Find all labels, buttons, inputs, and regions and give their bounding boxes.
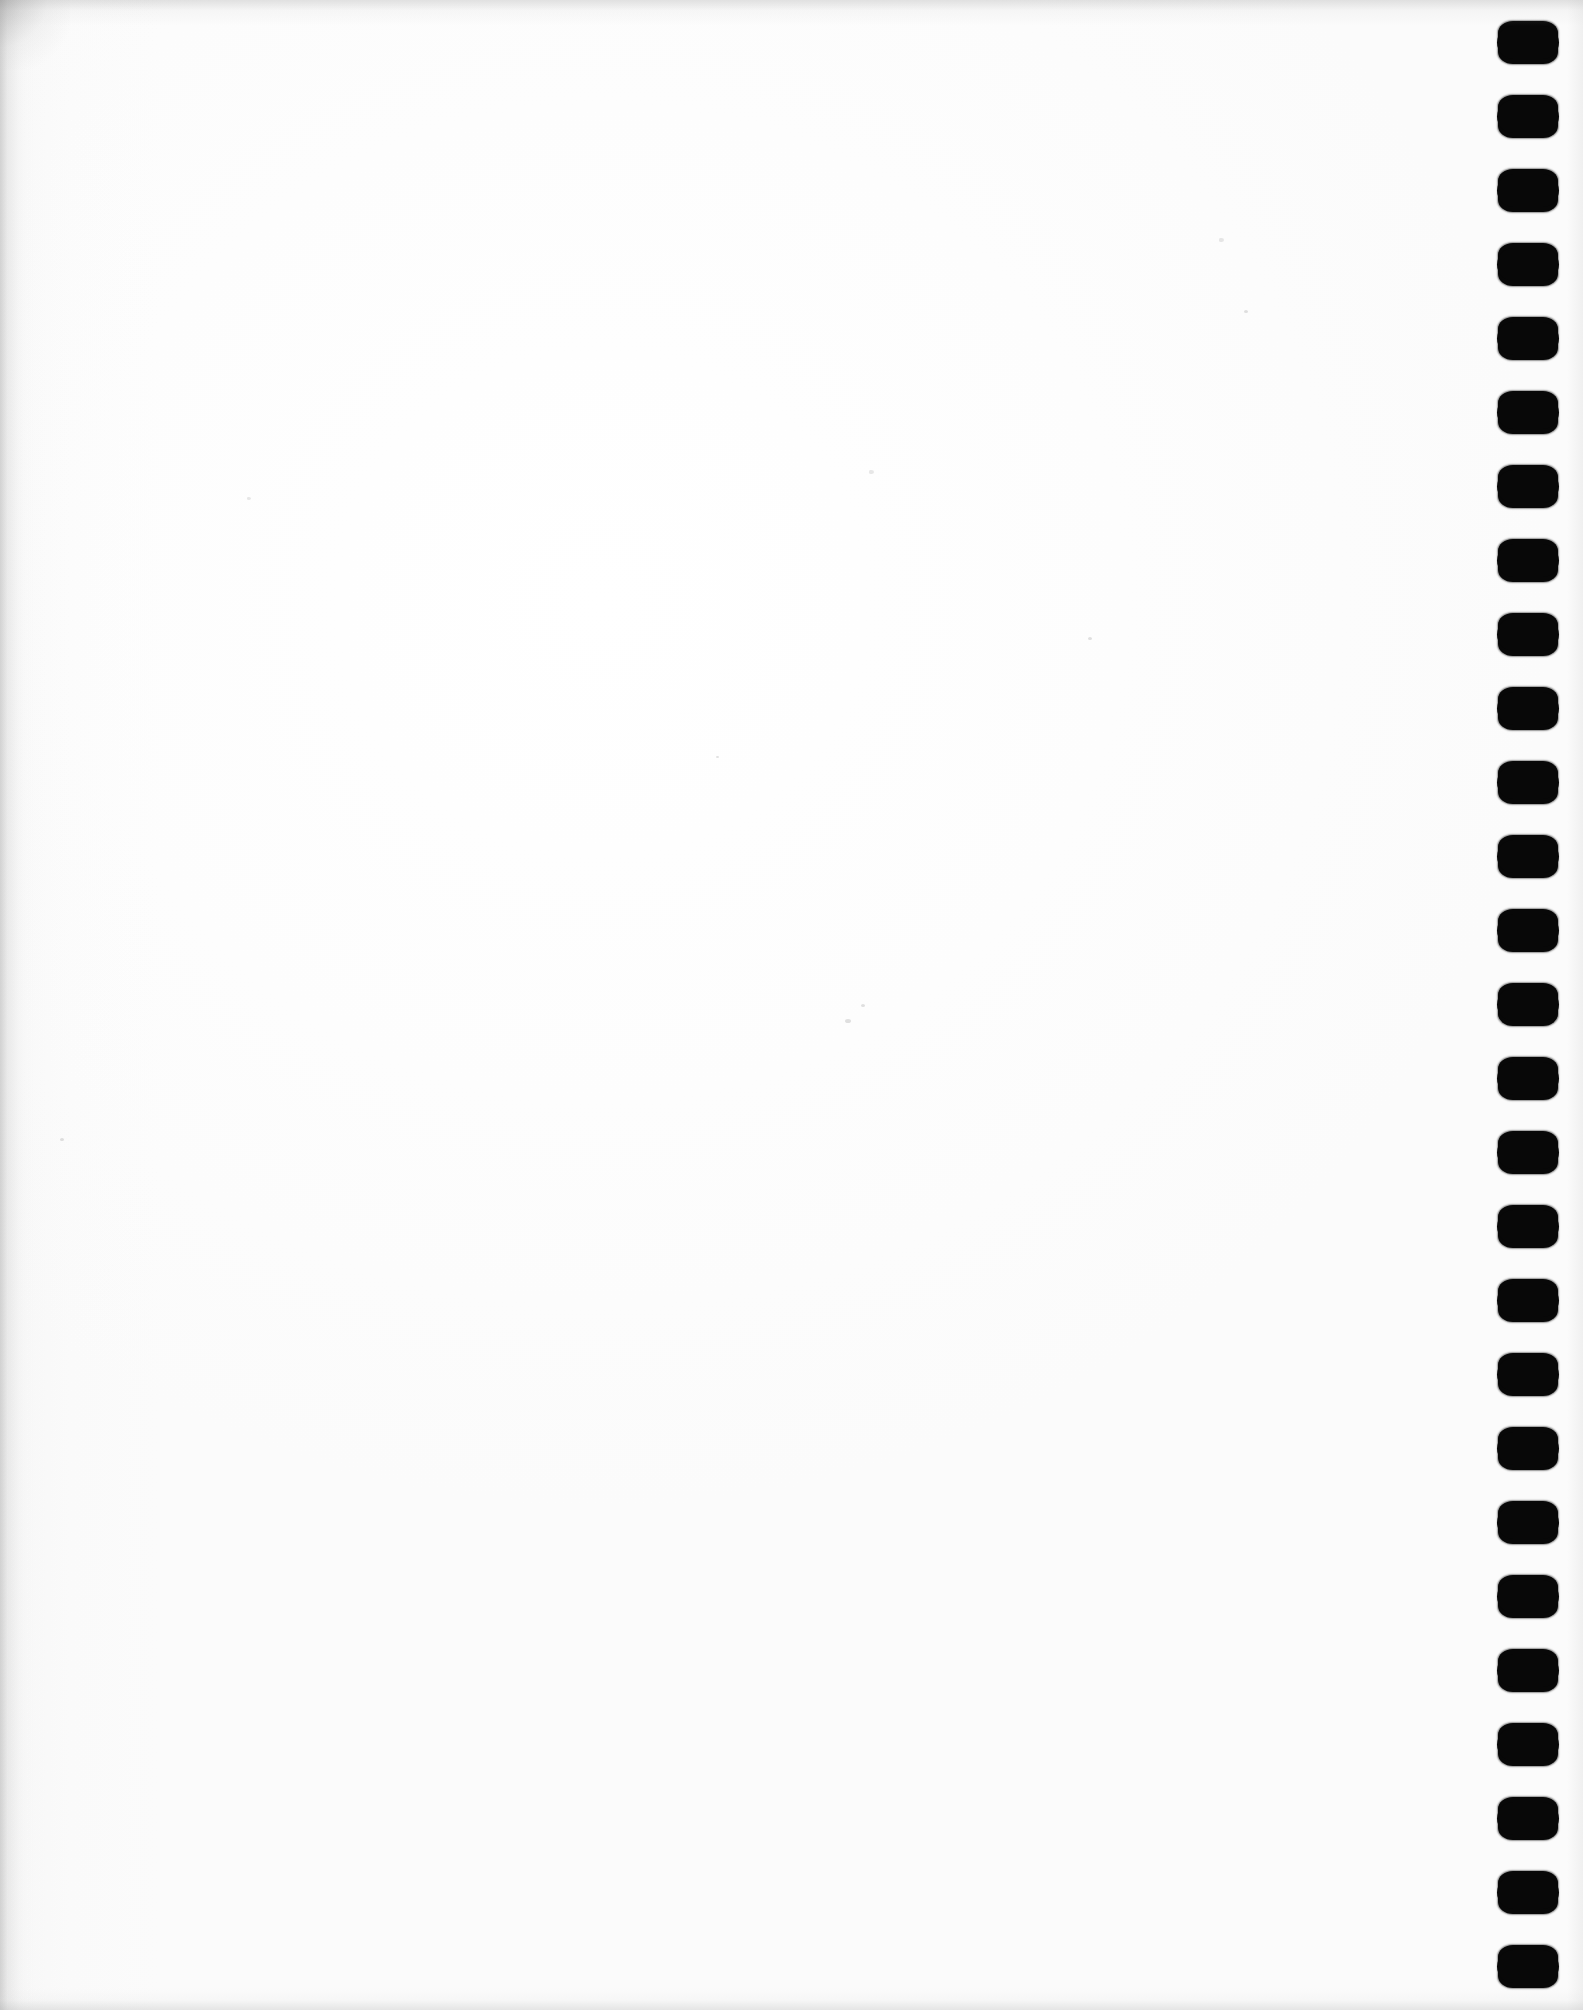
page-content-area	[40, 40, 1463, 1970]
punch-hole	[1498, 169, 1558, 212]
punch-hole	[1498, 1871, 1558, 1914]
punch-hole	[1498, 1945, 1558, 1988]
punch-hole	[1498, 539, 1558, 582]
punch-hole	[1498, 317, 1558, 360]
punch-hole	[1498, 983, 1558, 1026]
punch-hole	[1498, 1723, 1558, 1766]
scanned-page	[0, 0, 1583, 2010]
punch-hole	[1498, 1649, 1558, 1692]
punch-hole	[1498, 95, 1558, 138]
punch-hole-column	[1496, 0, 1566, 2010]
punch-hole	[1498, 1353, 1558, 1396]
punch-hole	[1498, 1057, 1558, 1100]
punch-hole	[1498, 1427, 1558, 1470]
punch-hole	[1498, 835, 1558, 878]
punch-hole	[1498, 391, 1558, 434]
punch-hole	[1498, 1131, 1558, 1174]
punch-hole	[1498, 761, 1558, 804]
punch-hole	[1498, 465, 1558, 508]
punch-hole	[1498, 1575, 1558, 1618]
punch-hole	[1498, 1501, 1558, 1544]
punch-hole	[1498, 243, 1558, 286]
punch-hole	[1498, 1279, 1558, 1322]
punch-hole	[1498, 1797, 1558, 1840]
punch-hole	[1498, 687, 1558, 730]
punch-hole	[1498, 21, 1558, 64]
punch-hole	[1498, 613, 1558, 656]
punch-hole	[1498, 1205, 1558, 1248]
punch-hole	[1498, 909, 1558, 952]
